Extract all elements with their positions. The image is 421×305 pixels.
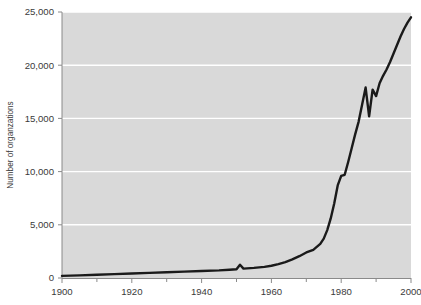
- x-tick-label: 2000: [400, 286, 421, 297]
- y-tick-label: 5,000: [30, 219, 54, 230]
- plot-area-background: [62, 12, 411, 278]
- x-tick-label: 1920: [121, 286, 142, 297]
- y-tick-label: 15,000: [25, 113, 54, 124]
- y-axis-title: Number of organzations: [6, 101, 15, 188]
- y-tick-label: 10,000: [25, 166, 54, 177]
- y-tick-label: 25,000: [25, 6, 54, 17]
- y-tick-label: 20,000: [25, 60, 54, 71]
- y-tick-label: 0: [49, 272, 54, 283]
- chart-container: 05,00010,00015,00020,00025,000 190019201…: [0, 0, 421, 305]
- x-tick-label: 1960: [261, 286, 282, 297]
- line-chart: 05,00010,00015,00020,00025,000 190019201…: [0, 0, 421, 305]
- x-tick-label: 1940: [191, 286, 212, 297]
- x-tick-label: 1980: [331, 286, 352, 297]
- x-tick-label: 1900: [51, 286, 72, 297]
